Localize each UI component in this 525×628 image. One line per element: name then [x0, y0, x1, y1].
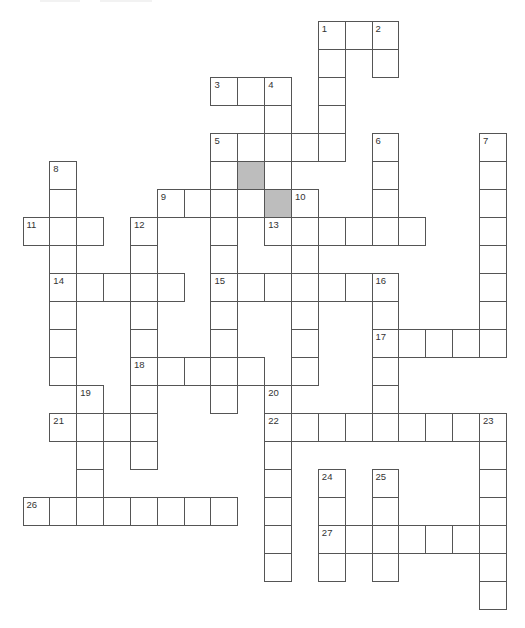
grid-cell[interactable]: 6 [372, 133, 400, 162]
grid-cell[interactable]: 17 [372, 329, 400, 358]
grid-cell[interactable] [479, 161, 507, 190]
grid-cell[interactable]: 11 [23, 217, 51, 246]
grid-cell[interactable] [479, 301, 507, 330]
grid-cell[interactable] [264, 469, 292, 498]
grid-cell[interactable] [318, 553, 346, 582]
grid-cell[interactable] [291, 273, 319, 302]
grid-cell[interactable] [372, 553, 400, 582]
grid-cell[interactable]: 18 [130, 357, 158, 386]
grid-cell[interactable] [291, 217, 319, 246]
grid-cell[interactable] [372, 217, 400, 246]
grid-cell[interactable] [318, 273, 346, 302]
grid-cell[interactable] [157, 357, 185, 386]
grid-cell[interactable] [264, 525, 292, 554]
grid-cell[interactable] [49, 189, 77, 218]
grid-cell[interactable] [264, 497, 292, 526]
grid-cell[interactable] [130, 273, 158, 302]
grid-cell[interactable] [103, 273, 131, 302]
grid-cell[interactable]: 8 [49, 161, 77, 190]
grid-cell[interactable] [130, 497, 158, 526]
grid-cell[interactable] [318, 77, 346, 106]
grid-cell[interactable] [318, 133, 346, 162]
grid-cell[interactable]: 24 [318, 469, 346, 498]
grid-cell[interactable] [210, 385, 238, 414]
grid-cell[interactable] [291, 133, 319, 162]
grid-cell[interactable] [210, 217, 238, 246]
grid-cell[interactable] [345, 525, 373, 554]
grid-cell[interactable] [130, 441, 158, 470]
grid-cell[interactable]: 14 [49, 273, 77, 302]
grid-cell[interactable] [318, 217, 346, 246]
grid-cell[interactable] [237, 273, 265, 302]
grid-cell[interactable] [479, 245, 507, 274]
grid-cell[interactable] [479, 329, 507, 358]
grid-cell[interactable] [76, 497, 104, 526]
grid-cell[interactable] [479, 469, 507, 498]
grid-cell[interactable] [479, 441, 507, 470]
grid-cell[interactable] [130, 329, 158, 358]
grid-cell[interactable] [372, 385, 400, 414]
grid-cell[interactable]: 23 [479, 413, 507, 442]
grid-cell[interactable]: 20 [264, 385, 292, 414]
grid-cell[interactable] [372, 525, 400, 554]
grid-cell[interactable] [372, 357, 400, 386]
grid-cell[interactable] [479, 273, 507, 302]
grid-cell[interactable] [49, 497, 77, 526]
grid-cell[interactable]: 10 [291, 189, 319, 218]
grid-cell[interactable] [345, 413, 373, 442]
grid-cell[interactable] [49, 357, 77, 386]
grid-cell[interactable] [49, 329, 77, 358]
grid-cell[interactable] [398, 217, 426, 246]
grid-cell[interactable]: 15 [210, 273, 238, 302]
grid-cell[interactable]: 3 [210, 77, 238, 106]
grid-cell[interactable] [76, 217, 104, 246]
grid-cell[interactable] [291, 329, 319, 358]
grid-cell[interactable] [318, 105, 346, 134]
grid-cell[interactable]: 27 [318, 525, 346, 554]
grid-cell[interactable] [372, 161, 400, 190]
grid-cell[interactable] [291, 245, 319, 274]
grid-cell[interactable] [372, 49, 400, 78]
grid-cell[interactable]: 13 [264, 217, 292, 246]
grid-cell[interactable] [345, 21, 373, 50]
grid-cell[interactable] [130, 413, 158, 442]
grid-cell[interactable] [210, 329, 238, 358]
grid-cell[interactable] [264, 441, 292, 470]
grid-cell[interactable]: 4 [264, 77, 292, 106]
grid-cell[interactable]: 22 [264, 413, 292, 442]
grid-cell[interactable] [264, 273, 292, 302]
grid-cell[interactable] [130, 245, 158, 274]
grid-cell[interactable] [291, 413, 319, 442]
grid-cell[interactable] [264, 553, 292, 582]
grid-cell[interactable] [398, 525, 426, 554]
grid-cell[interactable] [210, 189, 238, 218]
grid-cell[interactable] [425, 329, 453, 358]
grid-cell[interactable] [210, 497, 238, 526]
grid-cell[interactable] [76, 413, 104, 442]
grid-cell[interactable] [479, 497, 507, 526]
grid-cell[interactable]: 2 [372, 21, 400, 50]
grid-cell[interactable] [184, 357, 212, 386]
grid-cell[interactable] [264, 133, 292, 162]
grid-cell[interactable] [264, 105, 292, 134]
grid-cell[interactable] [479, 553, 507, 582]
grid-cell[interactable] [372, 413, 400, 442]
grid-cell[interactable] [398, 329, 426, 358]
grid-cell[interactable] [49, 245, 77, 274]
grid-cell[interactable] [237, 189, 265, 218]
grid-cell[interactable]: 25 [372, 469, 400, 498]
grid-cell[interactable] [345, 217, 373, 246]
grid-cell[interactable] [479, 581, 507, 610]
grid-cell[interactable] [76, 469, 104, 498]
grid-cell[interactable] [76, 273, 104, 302]
grid-cell[interactable] [130, 385, 158, 414]
grid-cell[interactable] [237, 77, 265, 106]
grid-cell[interactable] [264, 161, 292, 190]
grid-cell[interactable] [479, 189, 507, 218]
grid-cell[interactable] [237, 357, 265, 386]
grid-cell[interactable] [130, 301, 158, 330]
grid-cell[interactable] [479, 217, 507, 246]
grid-cell[interactable]: 5 [210, 133, 238, 162]
grid-cell[interactable] [103, 413, 131, 442]
grid-cell[interactable]: 26 [23, 497, 51, 526]
